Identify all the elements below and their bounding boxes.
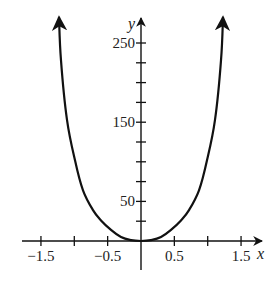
y-tick-label: 50 [120, 193, 135, 209]
x-tick-label: 0.5 [165, 248, 184, 264]
x-tick-label: −0.5 [94, 248, 121, 264]
x-axis-label: x [256, 245, 264, 262]
y-tick-label: 250 [113, 35, 136, 51]
chart: −1.5−0.50.51.550150250 x y [0, 0, 276, 284]
x-tick-label: −1.5 [27, 248, 54, 264]
x-tick-label: 1.5 [232, 248, 251, 264]
axes [22, 18, 262, 270]
y-axis-label: y [126, 15, 136, 33]
y-tick-label: 150 [113, 114, 136, 130]
